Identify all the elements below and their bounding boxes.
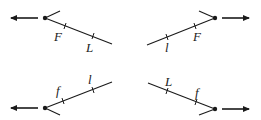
panel-top-right: l F	[147, 11, 249, 55]
label-F: F	[53, 29, 63, 44]
label-L: L	[164, 74, 172, 89]
label-l: l	[88, 72, 92, 87]
label-F: F	[192, 29, 202, 44]
diagram-canvas: F L l F f l L f	[0, 0, 261, 120]
panel-bottom-left: f l	[11, 72, 112, 115]
label-f: f	[56, 83, 62, 98]
short-ray	[45, 11, 60, 18]
label-f: f	[195, 85, 201, 100]
panel-top-left: F L	[11, 11, 112, 55]
short-ray	[199, 109, 215, 115]
long-ray	[148, 83, 215, 109]
label-l: l	[165, 40, 169, 55]
long-ray	[147, 18, 215, 45]
label-L: L	[85, 40, 93, 55]
panel-bottom-right: L f	[148, 74, 249, 115]
short-ray	[199, 11, 215, 18]
short-ray	[45, 108, 60, 115]
